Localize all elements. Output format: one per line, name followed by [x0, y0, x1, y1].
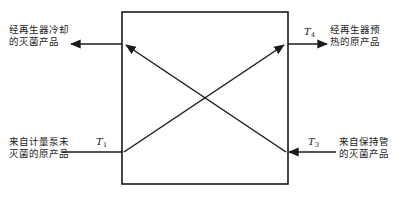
temperature-label-t1: T1: [96, 137, 107, 147]
temperature-subscript-t1: 1: [103, 141, 107, 149]
label-unsterilized-raw-product-in: 来自计量泵未 灭菌的原产品: [9, 136, 95, 159]
temperature-symbol-t3: T: [308, 136, 315, 147]
temperature-subscript-t4: 4: [311, 31, 315, 39]
temperature-symbol-t4: T: [304, 26, 311, 37]
diagram-canvas: 经再生器冷却 的灭菌产品 经再生器预 热的原产品 来自计量泵未 灭菌的原产品 来…: [0, 0, 403, 199]
temperature-label-t4: T4: [304, 27, 315, 37]
temperature-symbol-t1: T: [96, 136, 103, 147]
temperature-subscript-t3: 3: [315, 141, 319, 149]
label-preheated-raw-product-out: 经再生器预 热的原产品: [330, 24, 402, 47]
label-sterile-product-from-holding-tube-in: 来自保持管 的灭菌产品: [339, 136, 403, 159]
label-cooled-sterile-product-out: 经再生器冷却 的灭菌产品: [9, 24, 95, 47]
temperature-label-t3: T3: [308, 137, 319, 147]
